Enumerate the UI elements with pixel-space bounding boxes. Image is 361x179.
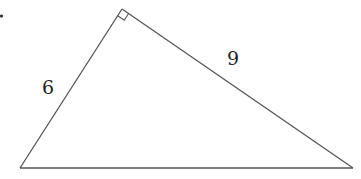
- right-triangle-diagram: 6 9: [0, 0, 361, 179]
- left-leg-line: [20, 9, 122, 168]
- bullet-dot: [0, 14, 3, 17]
- right-leg-label: 9: [227, 47, 239, 69]
- right-angle-marker: [118, 14, 129, 21]
- right-leg-line: [122, 9, 353, 168]
- left-leg-label: 6: [42, 76, 54, 98]
